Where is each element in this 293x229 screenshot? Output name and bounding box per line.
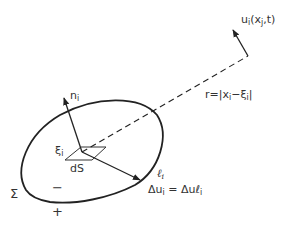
slip-direction-label: ℓi <box>157 168 164 181</box>
normal-label: ni <box>70 90 79 103</box>
displacement-vector-arrow <box>233 30 248 56</box>
slip-equation-label: Δui = Δuℓi <box>148 184 202 197</box>
distance-dashed-line <box>82 56 248 152</box>
fault-diagram <box>0 0 293 229</box>
source-point-label: ξi <box>55 145 63 158</box>
minus-side-label: − <box>52 181 63 194</box>
slip-vector-arrow <box>82 152 140 180</box>
surface-sigma-label: Σ <box>10 187 18 200</box>
area-element-label: dS <box>70 163 84 174</box>
surface-sigma-curve <box>21 100 162 202</box>
plus-side-label: + <box>52 205 63 218</box>
displacement-label: ui(xj,t) <box>241 14 275 27</box>
distance-label: r=|xi−ξi| <box>205 89 253 102</box>
